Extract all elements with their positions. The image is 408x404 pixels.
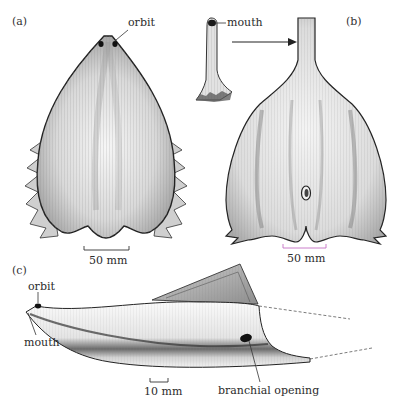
scale-bar-b: [283, 244, 326, 248]
illustration-canvas: [0, 0, 408, 404]
mouth-opening: [208, 20, 216, 26]
orbit-left: [98, 41, 103, 47]
lateral-orbit: [35, 304, 41, 309]
scale-label-a: 50 mm: [89, 255, 127, 266]
annotation-mouth-b: mouth: [227, 17, 263, 28]
annotation-mouth-c: mouth: [24, 337, 60, 348]
annotation-branchial-opening: branchial opening: [218, 385, 319, 396]
panel-c-lateral: [26, 264, 372, 382]
scale-bar-c: [150, 378, 168, 382]
panel-label-b: (b): [346, 16, 362, 27]
scale-bar-a: [84, 246, 129, 250]
panel-a-shield: [25, 30, 187, 238]
orbit-right: [112, 41, 117, 47]
annotation-orbit-c: orbit: [28, 281, 55, 292]
panel-b-shield: [226, 18, 386, 244]
panel-label-c: (c): [12, 265, 27, 276]
scale-label-c: 10 mm: [144, 386, 182, 397]
annotation-orbit-a: orbit: [128, 17, 155, 28]
arrow-tube-to-shield: [232, 38, 297, 46]
fossil-figure: (a) orbit 50 mm (b) mouth 50 mm (c) orbi…: [0, 0, 408, 404]
scale-label-b: 50 mm: [287, 253, 325, 264]
panel-label-a: (a): [12, 16, 27, 27]
panel-b-mouth-tube: [196, 18, 232, 102]
